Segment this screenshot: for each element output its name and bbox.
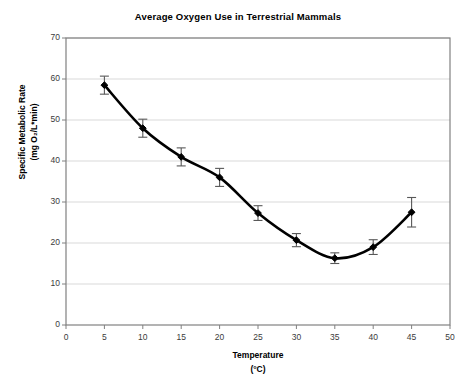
- x-tick-label: 20: [205, 332, 235, 342]
- y-tick-label: 30: [32, 196, 60, 206]
- data-point-marker: [331, 255, 338, 262]
- error-bars: [100, 76, 416, 263]
- y-tick-label: 10: [32, 278, 60, 288]
- data-point-markers: [101, 82, 415, 262]
- y-axis-label-line1: Specific Metabolic Rate: [17, 85, 27, 180]
- y-tick-label: 70: [32, 32, 60, 42]
- x-tick-label: 25: [243, 332, 273, 342]
- y-tick-label: 60: [32, 73, 60, 83]
- x-tick-label: 40: [358, 332, 388, 342]
- chart-figure: Average Oxygen Use in Terrestrial Mammal…: [0, 0, 476, 388]
- data-series-line: [104, 85, 411, 258]
- y-axis-label-line2: (mg O₂/L*min): [29, 103, 39, 160]
- y-tick-label: 20: [32, 237, 60, 247]
- x-tick-label: 10: [128, 332, 158, 342]
- x-tick-label: 35: [320, 332, 350, 342]
- gridlines: [66, 38, 450, 284]
- x-tick-label: 50: [435, 332, 465, 342]
- y-tick-label: 40: [32, 155, 60, 165]
- y-tick-label: 50: [32, 114, 60, 124]
- x-tick-label: 15: [166, 332, 196, 342]
- plot-area: [0, 0, 476, 388]
- x-axis-label-line2: (°C): [250, 364, 265, 374]
- x-axis-label-line1: Temperature: [233, 350, 284, 360]
- y-tick-label: 0: [32, 319, 60, 329]
- x-axis-label: Temperature (°C): [66, 348, 450, 376]
- x-tick-label: 0: [51, 332, 81, 342]
- chart-title: Average Oxygen Use in Terrestrial Mammal…: [0, 11, 476, 22]
- x-tick-label: 30: [281, 332, 311, 342]
- x-tick-label: 5: [89, 332, 119, 342]
- x-tick-label: 45: [397, 332, 427, 342]
- plot-border: [66, 38, 450, 325]
